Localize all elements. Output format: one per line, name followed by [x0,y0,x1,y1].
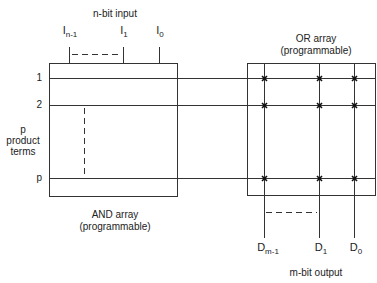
and-array-subtitle: (programmable) [79,221,150,232]
output-label-m-1: Dm-1 [257,242,279,254]
row-label-2: 2 [36,99,42,110]
signal-subscript: 1 [123,30,127,39]
product-terms-label-product: product [6,135,39,146]
product-terms-label-p: p [20,124,26,135]
signal-base: D [315,241,323,253]
input-label-1: I1 [120,25,128,37]
input-label-0: I0 [156,25,164,37]
product-terms-label-terms: terms [11,146,36,157]
signal-subscript: m-1 [265,247,279,256]
and-array-title: AND array [92,209,139,220]
signal-base: D [257,241,265,253]
or-array-subtitle: (programmable) [280,45,351,56]
signal-subscript: 0 [358,247,362,256]
output-label-1: D1 [315,242,327,254]
signal-base: D [350,241,358,253]
signal-subscript: 1 [323,247,327,256]
or-connection-marks [262,76,357,181]
or-array-title: OR array [296,33,337,44]
and-array-box [50,64,178,197]
output-title: m-bit output [290,267,343,278]
output-label-0: D0 [350,242,362,254]
signal-subscript: 0 [159,30,163,39]
signal-subscript: n-1 [66,30,78,39]
row-label-p: p [36,172,42,183]
row-label-1: 1 [36,72,42,83]
input-title: n-bit input [93,8,137,19]
input-label-n-1: In-1 [63,25,78,37]
